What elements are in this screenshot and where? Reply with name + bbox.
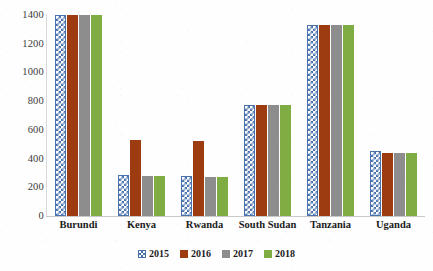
- bar-chart: 0200400600800100012001400 BurundiKenyaRw…: [0, 0, 433, 271]
- bar-group: [236, 15, 299, 216]
- x-axis-label-rwanda: Rwanda: [173, 219, 236, 232]
- plot-area: [47, 15, 425, 216]
- legend-swatch-icon-2017: [222, 250, 230, 258]
- bar-tanzania-2018: [343, 25, 354, 216]
- legend-label-2017: 2017: [233, 249, 253, 259]
- x-axis-category-labels: BurundiKenyaRwandaSouth SudanTanzaniaUga…: [47, 219, 425, 237]
- bar-south-sudan-2015: [244, 105, 255, 216]
- y-axis-tick-label: 600: [2, 125, 44, 136]
- bar-group-bars: [299, 15, 362, 216]
- bar-group-bars: [47, 15, 110, 216]
- bar-south-sudan-2018: [280, 105, 291, 216]
- bar-kenya-2017: [142, 176, 153, 216]
- bar-group: [299, 15, 362, 216]
- y-axis-tick-label: 400: [2, 154, 44, 165]
- bar-uganda-2015: [370, 151, 381, 216]
- y-axis-tick-label: 200: [2, 182, 44, 193]
- y-axis-tick-label: 0: [2, 211, 44, 222]
- bar-rwanda-2017: [205, 177, 216, 216]
- bar-group-bars: [362, 15, 425, 216]
- legend-swatch-icon-2016: [180, 250, 188, 258]
- legend-item-2018[interactable]: 2018: [264, 249, 295, 259]
- bar-kenya-2016: [130, 140, 141, 216]
- bar-group: [110, 15, 173, 216]
- legend-label-2016: 2016: [191, 249, 211, 259]
- bar-group-bars: [236, 15, 299, 216]
- legend-item-2016[interactable]: 2016: [180, 249, 211, 259]
- bar-group: [47, 15, 110, 216]
- bar-tanzania-2016: [319, 25, 330, 216]
- x-axis-label-uganda: Uganda: [362, 219, 425, 232]
- x-axis-label-south-sudan: South Sudan: [236, 219, 299, 232]
- bar-group: [362, 15, 425, 216]
- x-axis-label-kenya: Kenya: [110, 219, 173, 232]
- bar-south-sudan-2016: [256, 105, 267, 216]
- x-axis-line: [46, 216, 425, 217]
- bar-uganda-2017: [394, 153, 405, 216]
- bar-group-bars: [173, 15, 236, 216]
- bar-tanzania-2017: [331, 25, 342, 216]
- bar-burundi-2017: [79, 15, 90, 216]
- bar-group: [173, 15, 236, 216]
- y-axis-tick-label: 1400: [2, 10, 44, 21]
- bar-rwanda-2016: [193, 141, 204, 216]
- legend-item-2017[interactable]: 2017: [222, 249, 253, 259]
- legend-label-2015: 2015: [149, 249, 169, 259]
- bar-uganda-2018: [406, 153, 417, 216]
- bar-uganda-2016: [382, 153, 393, 216]
- bar-tanzania-2015: [307, 25, 318, 216]
- bar-group-bars: [110, 15, 173, 216]
- x-axis-label-tanzania: Tanzania: [299, 219, 362, 232]
- legend-swatch-icon-2018: [264, 250, 272, 258]
- bar-south-sudan-2017: [268, 105, 279, 216]
- legend-item-2015[interactable]: 2015: [138, 249, 169, 259]
- bar-kenya-2018: [154, 176, 165, 216]
- y-axis-tick-label: 1000: [2, 67, 44, 78]
- bar-rwanda-2015: [181, 176, 192, 216]
- legend-label-2018: 2018: [275, 249, 295, 259]
- bar-burundi-2018: [91, 15, 102, 216]
- x-axis-label-burundi: Burundi: [47, 219, 110, 232]
- bar-burundi-2016: [67, 15, 78, 216]
- y-axis-tick-label: 1200: [2, 39, 44, 50]
- legend-swatch-icon-2015: [138, 250, 146, 258]
- bar-rwanda-2018: [217, 177, 228, 216]
- bar-burundi-2015: [55, 15, 66, 216]
- bar-kenya-2015: [118, 175, 129, 216]
- y-axis-tick-labels: 0200400600800100012001400: [0, 0, 44, 271]
- chart-legend: 2015201620172018: [0, 249, 433, 259]
- y-axis-tick-label: 800: [2, 96, 44, 107]
